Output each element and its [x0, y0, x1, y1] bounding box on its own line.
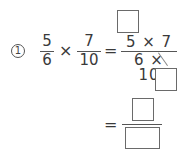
fraction-b-denominator: 10	[77, 53, 101, 68]
fraction-b-numerator: 7	[77, 34, 101, 49]
answer-fraction-bar	[122, 124, 162, 125]
fraction-a-numerator: 5	[40, 34, 54, 49]
combined-numerator: 5 × 7	[121, 35, 177, 50]
cancel-numerator-input-box[interactable]	[117, 10, 139, 33]
cancel-denominator-input-box[interactable]	[155, 68, 177, 91]
equals-sign: =	[104, 43, 117, 59]
result-equals-sign: =	[104, 117, 117, 133]
answer-denominator-input-box[interactable]	[125, 127, 160, 149]
fraction-a-denominator: 6	[40, 53, 54, 68]
multiply-operator: ×	[59, 43, 72, 59]
answer-numerator-input-box[interactable]	[132, 98, 154, 121]
problem-number: 1	[15, 45, 21, 56]
problem-number-badge: 1	[11, 44, 25, 58]
